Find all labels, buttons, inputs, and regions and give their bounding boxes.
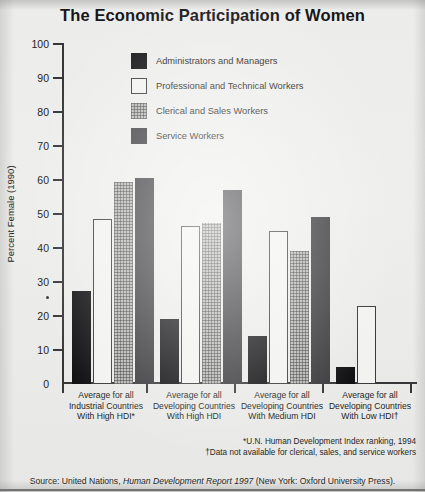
- y-axis-label: Percent Female (1990): [5, 165, 16, 262]
- chart-legend: Administrators and ManagersProfessional …: [131, 48, 303, 148]
- source-line: Source: United Nations, Human Developmen…: [30, 476, 395, 486]
- legend-label-admin: Administrators and Managers: [156, 56, 277, 66]
- y-tick-70: [53, 145, 64, 147]
- bar-prof-group-2: [181, 226, 200, 384]
- y-tick-90: [53, 77, 64, 79]
- bar-prof-group-1: [93, 219, 112, 384]
- source-suffix: (New York: Oxford University Press).: [253, 476, 395, 486]
- y-tick-label-80: 80: [37, 106, 49, 118]
- bar-prof-group-4: [357, 306, 376, 384]
- chart-figure: The Economic Participation of Women Perc…: [0, 0, 425, 492]
- bar-admin-group-3: [248, 336, 267, 384]
- chart-title: The Economic Participation of Women: [0, 6, 425, 25]
- source-report-title: Human Development Report 1997: [123, 476, 253, 486]
- legend-label-prof: Professional and Technical Workers: [156, 81, 303, 91]
- y-tick-50: [53, 213, 64, 215]
- y-tick-label-30: 30: [37, 276, 49, 288]
- bar-admin-group-4: [336, 367, 355, 384]
- y-tick-label-70: 70: [37, 140, 49, 152]
- y-tick-80: [53, 111, 64, 113]
- y-tick-20: [53, 315, 64, 317]
- y-tick-60: [53, 179, 64, 181]
- y-tick-label-0: 0: [43, 378, 49, 390]
- y-tick-label-10: 10: [37, 344, 49, 356]
- bar-cler-group-1: [114, 182, 133, 384]
- bar-serv-group-2: [223, 190, 242, 384]
- bar-cler-group-3: [290, 251, 309, 384]
- legend-swatch-prof-icon: [131, 78, 147, 94]
- bar-admin-group-2: [160, 319, 179, 384]
- footnote-asterisk: *U.N. Human Development Index ranking, 1…: [205, 436, 416, 447]
- legend-swatch-cler-icon: [131, 103, 147, 119]
- y-tick-10: [53, 349, 64, 351]
- bar-prof-group-3: [269, 231, 288, 384]
- legend-swatch-serv-icon: [131, 128, 147, 144]
- footnotes: *U.N. Human Development Index ranking, 1…: [205, 436, 416, 458]
- y-tick-40: [53, 247, 64, 249]
- footnote-dagger: †Data not available for clerical, sales,…: [205, 447, 416, 458]
- y-tick-label-20: 20: [37, 310, 49, 322]
- bar-group-4: [336, 44, 424, 384]
- bar-serv-group-1: [135, 178, 154, 384]
- y-tick-label-100: 100: [31, 38, 49, 50]
- y-tick-label-90: 90: [37, 72, 49, 84]
- legend-swatch-admin-icon: [131, 53, 147, 69]
- legend-label-cler: Clerical and Sales Workers: [156, 106, 268, 116]
- legend-label-serv: Service Workers: [156, 131, 224, 141]
- category-label-4: Average for allDeveloping CountriesWith …: [318, 390, 422, 422]
- bar-cler-group-2: [202, 223, 221, 385]
- source-line-wrap: Source: United Nations, Human Developmen…: [0, 470, 425, 488]
- source-prefix: Source: United Nations,: [30, 476, 123, 486]
- legend-item-cler: Clerical and Sales Workers: [131, 98, 303, 123]
- legend-item-admin: Administrators and Managers: [131, 48, 303, 73]
- y-tick-label-50: 50: [37, 208, 49, 220]
- y-tick-100: [53, 43, 64, 45]
- scan-speck: [46, 296, 49, 299]
- y-tick-label-60: 60: [37, 174, 49, 186]
- y-tick-30: [53, 281, 64, 283]
- bar-serv-group-3: [311, 217, 330, 384]
- bar-admin-group-1: [72, 291, 91, 385]
- legend-item-serv: Service Workers: [131, 123, 303, 148]
- legend-item-prof: Professional and Technical Workers: [131, 73, 303, 98]
- bottom-rule: [0, 489, 425, 491]
- y-tick-label-40: 40: [37, 242, 49, 254]
